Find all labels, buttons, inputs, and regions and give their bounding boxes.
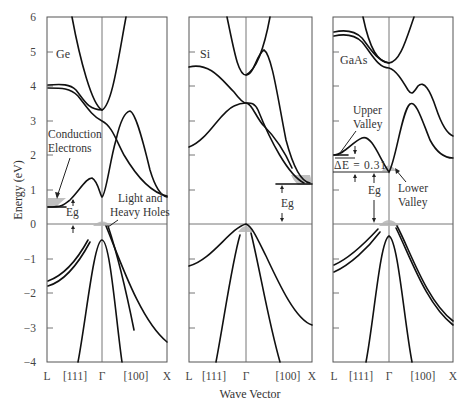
annotation: ΔE = 0.31 [334,159,386,171]
y-tick: 5 [30,46,36,58]
x-tick: [100] [124,370,149,382]
material-label: GaAs [340,53,368,67]
annotation: Light and [118,192,163,205]
y-tick: −4 [24,356,36,368]
panel-si: Si Eg L [111] Γ [100] X [185,17,316,382]
x-tick: [111] [202,370,226,382]
panel-frame [47,17,167,362]
y-tick: 2 [30,149,36,161]
y-axis-ticks: 6 5 4 3 2 1 0 −1 −2 −3 −4 [24,11,37,368]
panel-ge: Ge Conduction Electrons Light and Heavy … [43,17,171,382]
annotation: Eg [368,184,381,197]
x-tick: X [308,370,317,382]
annotation: Upper [353,104,382,117]
y-axis-label: Energy (eV) [11,160,25,219]
x-axis-label: Wave Vector [219,387,280,401]
material-label: Si [200,47,211,61]
x-tick: X [449,370,458,382]
y-tick: 0 [30,218,36,230]
x-tick: [100] [276,370,301,382]
annotation: Eg [66,206,79,219]
y-tick: 1 [30,184,36,196]
material-label: Ge [56,47,70,61]
annotation: Valley [398,196,428,209]
y-tick: −2 [24,287,36,299]
panel-gaas: GaAs Upper Valley ΔE = 0.31 Eg Lower Val… [330,17,457,382]
x-tick: L [43,370,50,382]
y-tick: −3 [24,322,36,334]
annotation: Electrons [48,142,92,154]
x-tick: Γ [386,370,393,382]
x-tick: [100] [411,370,436,382]
x-tick: [111] [349,370,373,382]
x-tick: Γ [99,370,106,382]
annotation: Lower [398,182,428,194]
annotation: Heavy Holes [110,206,170,219]
annotation: Conduction [48,128,102,140]
x-tick: [111] [63,370,87,382]
valence-max-shade [379,220,399,226]
annotation: Eg [281,197,294,210]
x-tick: L [330,370,337,382]
y-tick: 6 [30,11,36,23]
annotation: Valley [353,118,383,131]
band-structure-figure: 6 5 4 3 2 1 0 −1 −2 −3 −4 Energy (eV) [0,0,471,405]
panel-frame [333,17,453,362]
x-tick: X [163,370,172,382]
y-tick: 3 [30,115,36,127]
y-tick: 4 [30,80,36,92]
y-tick: −1 [24,253,36,265]
x-tick: Γ [243,370,250,382]
x-tick: L [185,370,192,382]
